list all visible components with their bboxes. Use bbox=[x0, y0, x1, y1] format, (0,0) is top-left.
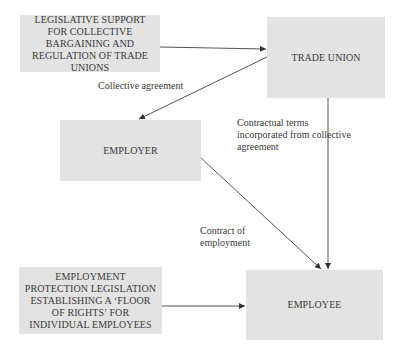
node-trade-union-label: TRADE UNION bbox=[291, 52, 360, 64]
node-legislative-support: LEGISLATIVE SUPPORT FOR COLLECTIVE BARGA… bbox=[20, 15, 160, 72]
node-employer: EMPLOYER bbox=[60, 120, 201, 181]
node-employee: EMPLOYEE bbox=[246, 270, 383, 340]
edge-label-collective-agreement: Collective agreement bbox=[98, 80, 183, 92]
node-trade-union: TRADE UNION bbox=[267, 17, 385, 98]
edge-label-contractual-terms: Contractual terms incorporated from coll… bbox=[237, 117, 357, 153]
node-employee-label: EMPLOYEE bbox=[287, 299, 341, 311]
node-legislative-support-label: LEGISLATIVE SUPPORT FOR COLLECTIVE BARGA… bbox=[24, 14, 156, 74]
edge-legislative-to-trade-union bbox=[160, 47, 266, 49]
node-employer-label: EMPLOYER bbox=[103, 145, 158, 157]
edge-employer-to-employee bbox=[201, 158, 321, 269]
node-employment-protection-label: EMPLOYMENT PROTECTION LEGISLATION ESTABL… bbox=[23, 271, 158, 331]
node-employment-protection: EMPLOYMENT PROTECTION LEGISLATION ESTABL… bbox=[19, 267, 162, 334]
edge-label-contract-of-employment: Contract of employment bbox=[200, 225, 290, 249]
